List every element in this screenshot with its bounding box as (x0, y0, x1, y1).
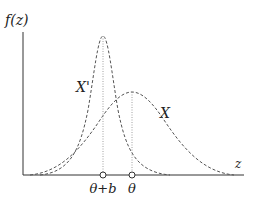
tick-label-theta: θ (128, 181, 136, 196)
marker-theta (129, 172, 135, 178)
curve-x-prime (40, 36, 170, 175)
density-diagram: f(z) z X' X θ+b θ (0, 0, 253, 204)
curve-label-x: X (159, 105, 171, 121)
tick-label-theta-b: θ+b (89, 181, 116, 196)
x-axis-label: z (234, 157, 242, 171)
marker-theta-b (100, 172, 106, 178)
curve-label-x-prime: X' (75, 79, 90, 95)
diagram-canvas: f(z) z X' X θ+b θ (0, 0, 253, 204)
y-axis-label: f(z) (4, 12, 28, 28)
